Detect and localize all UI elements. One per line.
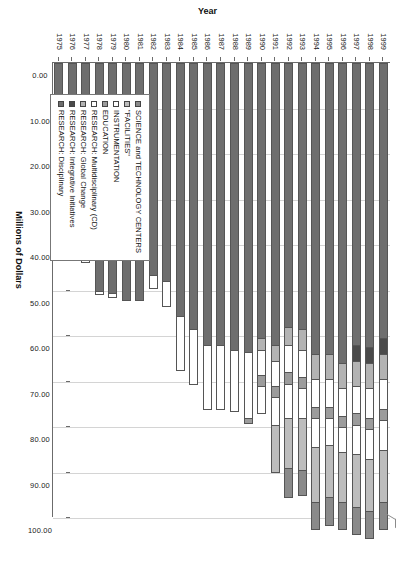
bar-row <box>217 63 226 410</box>
bar-segment <box>311 379 320 407</box>
y-axis-tick-mark <box>234 57 235 61</box>
bar-row <box>189 63 198 385</box>
bar-segment <box>284 384 293 419</box>
bar-segment <box>203 345 212 410</box>
y-axis-tick-mark <box>247 57 248 61</box>
bar-segment <box>379 450 388 503</box>
y-axis-tick-mark <box>274 57 275 61</box>
y-axis-tick-mark <box>193 57 194 61</box>
bar-segment <box>379 63 388 339</box>
bar-segment <box>325 445 334 498</box>
bar-segment <box>365 347 374 364</box>
x-axis-tick-mark <box>66 517 70 518</box>
bar-segment <box>352 425 361 456</box>
bar-row <box>257 63 266 414</box>
x-axis-tick-label: 70.00 <box>30 390 50 399</box>
y-axis-tick-label: 1995 <box>325 10 334 50</box>
bar-segment <box>379 338 388 355</box>
bar-segment <box>298 63 307 330</box>
bar-segment <box>298 329 307 350</box>
bar-segment <box>217 63 226 346</box>
bar-segment <box>311 502 320 530</box>
bar-segment <box>325 63 334 355</box>
bar-segment <box>244 63 253 353</box>
y-axis-tick-mark <box>152 57 153 61</box>
bar-segment <box>311 63 320 355</box>
bar-segment <box>284 468 293 499</box>
y-axis-tick-mark <box>58 57 59 61</box>
bar-row <box>298 63 307 496</box>
bar-segment <box>271 397 280 425</box>
bar-segment <box>365 388 374 419</box>
x-axis-tick-label: 100.00 <box>28 526 52 535</box>
x-axis-tick-label: 60.00 <box>30 344 50 353</box>
bar-segment <box>230 63 239 351</box>
bar-segment <box>311 447 320 503</box>
bar-segment <box>217 345 226 410</box>
bar-segment <box>352 361 361 387</box>
bar-row <box>352 63 361 535</box>
legend-swatch <box>125 101 131 107</box>
bar-row <box>271 63 280 473</box>
y-axis-tick-mark <box>355 57 356 61</box>
y-axis-tick-mark <box>85 57 86 61</box>
bar-segment <box>176 63 185 317</box>
bar-segment <box>298 350 307 378</box>
x-axis-tick-mark <box>66 335 70 336</box>
bar-segment <box>162 281 171 307</box>
bar-segment <box>284 327 293 346</box>
x-axis-tick-label: 80.00 <box>30 435 50 444</box>
y-axis-tick-mark <box>342 57 343 61</box>
bar-segment <box>162 63 171 282</box>
bar-segment <box>230 350 239 412</box>
x-axis-title: Millions of Dollars <box>14 211 24 289</box>
bar-segment <box>325 418 334 446</box>
bar-segment <box>325 354 334 380</box>
legend-label: EDUCATION <box>100 110 111 155</box>
y-axis-tick-mark <box>206 57 207 61</box>
y-axis-tick-mark <box>98 57 99 61</box>
y-axis-tick-label: 1986 <box>203 10 212 50</box>
legend-label: RESEARCH: Multidisciplinary (CD) <box>89 110 100 230</box>
x-axis-tick-label: 10.00 <box>30 117 50 126</box>
bar-segment <box>149 63 158 276</box>
y-axis-tick-mark <box>369 57 370 61</box>
bar-row <box>284 63 293 498</box>
bar-row <box>230 63 239 412</box>
y-axis-tick-label: 1982 <box>149 10 158 50</box>
bar-row <box>203 63 212 410</box>
bar-row <box>338 63 347 530</box>
bar-segment <box>284 345 293 373</box>
legend-swatch <box>136 101 142 107</box>
x-axis-tick-label: 0.00 <box>32 71 47 80</box>
bar-row <box>325 63 334 526</box>
bar-segment <box>311 354 320 380</box>
bar-segment <box>257 386 266 414</box>
bar-row <box>379 63 388 530</box>
x-axis-tick-mark <box>66 426 70 427</box>
bar-segment <box>271 361 280 387</box>
legend-item: RESEARCH: Global Change <box>78 101 89 253</box>
x-axis-tick-label: 50.00 <box>30 299 50 308</box>
bar-segment <box>311 418 320 449</box>
bar-segment <box>365 459 374 512</box>
bar-segment <box>338 363 347 389</box>
bar-segment <box>298 418 307 471</box>
x-axis-tick-label: 30.00 <box>30 208 50 217</box>
legend-label: INSTRUMENTATION <box>111 110 122 182</box>
bar-segment <box>298 470 307 496</box>
legend-swatch <box>92 101 98 107</box>
bar-segment <box>379 420 388 451</box>
stacked-bar-chart: Year Millions of Dollars SCIENCE and TEC… <box>0 0 408 561</box>
bar-row <box>176 63 185 371</box>
legend-swatch <box>103 101 109 107</box>
y-axis-tick-mark <box>179 57 180 61</box>
legend-item: EDUCATION <box>100 101 111 253</box>
bar-segment <box>352 507 361 535</box>
chart-legend: SCIENCE and TECHNOLOGY CENTERS"FACILITIE… <box>50 94 150 261</box>
bar-segment <box>257 63 266 339</box>
bar-row <box>244 63 253 424</box>
bar-segment <box>365 63 374 348</box>
y-axis-tick-label: 1994 <box>312 10 321 50</box>
legend-swatch <box>70 101 76 107</box>
